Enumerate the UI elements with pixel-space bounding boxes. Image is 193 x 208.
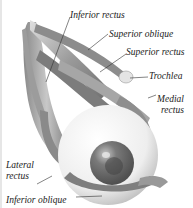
eyeball bbox=[58, 105, 168, 205]
label-medial-rectus-line1: Medial bbox=[157, 94, 184, 104]
label-trochlea: Trochlea bbox=[149, 71, 182, 81]
label-superior-rectus: Superior rectus bbox=[126, 47, 185, 57]
label-lateral-rectus-line1: Lateral bbox=[6, 160, 34, 170]
pupil bbox=[105, 157, 123, 175]
eye-muscles-diagram: Inferior rectus Superior oblique Superio… bbox=[0, 0, 193, 208]
label-superior-oblique: Superior oblique bbox=[109, 29, 173, 39]
label-inferior-rectus: Inferior rectus bbox=[70, 10, 125, 20]
label-medial-rectus-line2: rectus bbox=[161, 105, 184, 115]
label-lateral-rectus-line2: rectus bbox=[6, 171, 29, 181]
label-inferior-oblique: Inferior oblique bbox=[6, 195, 66, 205]
